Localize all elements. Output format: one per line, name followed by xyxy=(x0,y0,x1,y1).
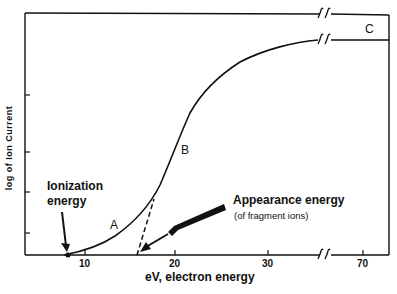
ionization-energy-label: Ionization energy xyxy=(47,179,103,209)
appearance-energy-sublabel: (of fragment ions) xyxy=(234,210,308,221)
x-tick-30: 30 xyxy=(262,258,273,269)
axis-break-marks xyxy=(318,8,330,259)
appearance-energy-label: Appearance energy xyxy=(233,193,344,208)
ionization-label-line2: energy xyxy=(47,194,103,209)
region-label-b: B xyxy=(181,143,189,157)
y-axis-label: log of Ion Current xyxy=(4,98,14,198)
ionization-point xyxy=(66,253,71,258)
plot-frame xyxy=(25,13,389,255)
x-tick-10: 10 xyxy=(79,258,90,269)
ionization-arrow xyxy=(61,212,70,252)
x-tick-70: 70 xyxy=(357,258,368,269)
region-label-c: C xyxy=(365,22,374,36)
x-tick-20: 20 xyxy=(169,258,180,269)
appearance-arrow xyxy=(140,204,226,252)
ionization-label-line1: Ionization xyxy=(47,179,103,194)
chart-canvas xyxy=(0,0,397,294)
region-label-a: A xyxy=(110,218,118,232)
x-axis-label: eV, electron energy xyxy=(145,270,255,284)
y-axis-ticks xyxy=(25,95,30,233)
